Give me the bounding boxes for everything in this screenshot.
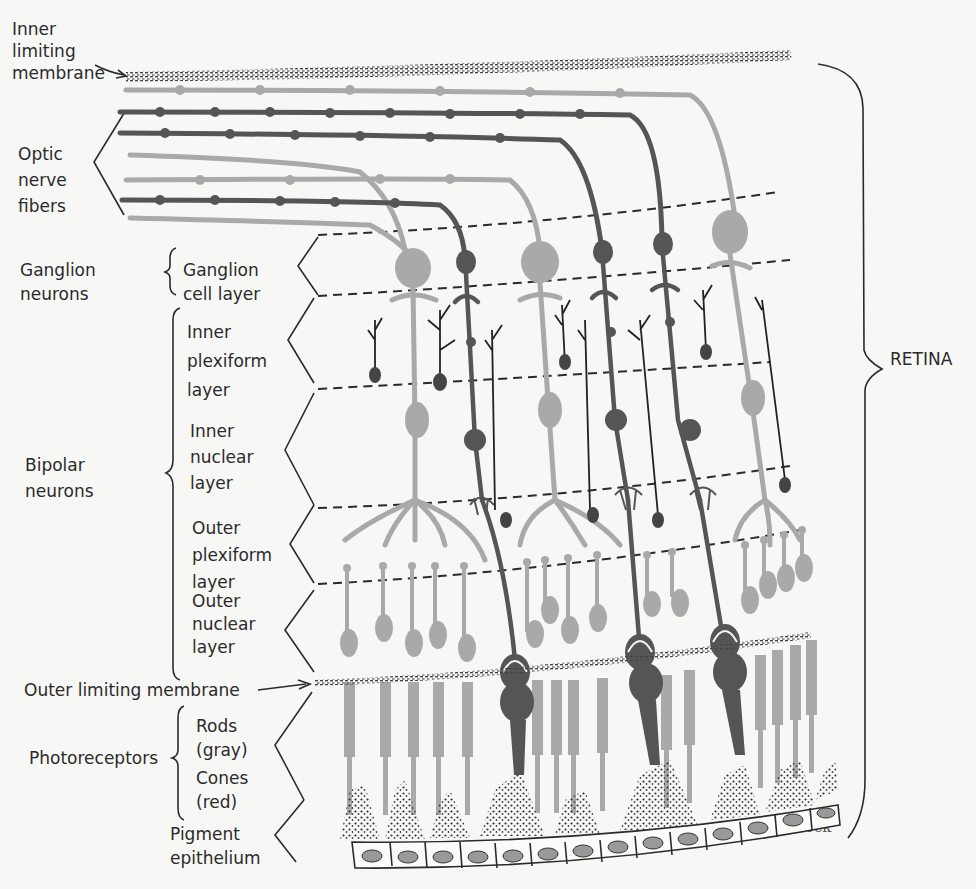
rod-cell [561,554,579,813]
rod-cell [405,562,423,815]
retina-diagram [0,0,976,889]
rod-cell [429,562,447,815]
ganglion-cell-gray [712,210,748,254]
rod-cell [340,564,358,815]
rod-cell [375,562,393,815]
rod-cell [668,548,695,803]
bracket-lines [94,64,882,862]
ganglion-cell-dark [653,232,673,256]
rod-bipolar-somas [405,380,765,438]
ganglion-cells [395,210,748,288]
amacrine-somas [369,344,791,528]
ganglion-cell-gray [521,241,559,283]
ganglion-cell-dark [456,250,476,274]
rod-cell [541,556,562,813]
rod-cell [458,562,476,815]
inner-limiting-membrane [126,50,792,82]
rod-cell [589,551,608,811]
arrow-inner-limiting [95,65,124,75]
pigment-epithelium-cells [352,805,840,868]
ganglion-cell-gray [395,248,431,288]
amacrine-cells [368,285,785,515]
ganglion-cell-dark [593,240,613,264]
fiber-varicosities [155,85,625,208]
